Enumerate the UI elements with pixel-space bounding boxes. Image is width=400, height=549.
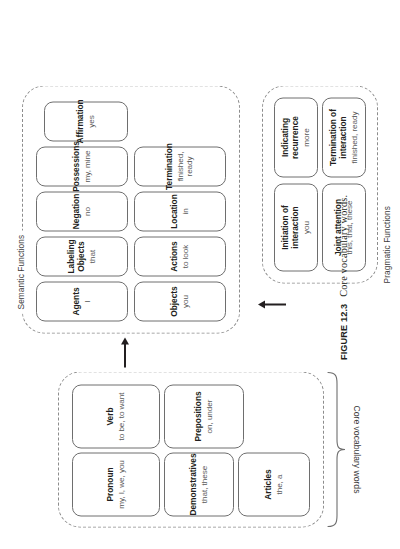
group-pragmatic-functions-label: Pragmatic Functions — [382, 201, 392, 287]
box-subtitle: finished, ready — [350, 111, 359, 163]
box-subtitle: I — [83, 300, 92, 302]
box-affirmation[interactable]: Affirmation yes — [44, 101, 128, 141]
group-semantic-functions-label: Semantic Functions — [16, 230, 26, 313]
box-demonstratives[interactable]: Demonstratives that, these — [164, 452, 234, 516]
box-negation[interactable]: Negation no — [36, 191, 128, 231]
arrow-core-to-pragmatic — [258, 299, 286, 309]
box-agents[interactable]: Agents I — [36, 281, 128, 321]
box-articles[interactable]: Articles the, a — [238, 452, 310, 516]
box-title: Labeling Objects — [67, 239, 86, 273]
box-subtitle: that — [88, 249, 97, 262]
box-title: Objects — [170, 286, 179, 316]
box-title: Termination — [165, 143, 174, 190]
box-subtitle: that, these — [200, 465, 209, 502]
box-indicating-recurrence[interactable]: Indicating recurrence more — [274, 97, 318, 177]
core-vocabulary-brace — [328, 371, 346, 527]
box-title: Articles — [264, 469, 273, 499]
box-title: Agents — [72, 287, 81, 315]
arrow-head-icon — [121, 337, 129, 344]
box-title: Demonstratives — [189, 453, 198, 515]
box-title: Verb — [106, 407, 115, 425]
box-pronoun[interactable]: Pronoun my, I, we, you — [72, 452, 160, 516]
box-subtitle: on, under — [205, 399, 214, 433]
box-actions[interactable]: Actions to look — [134, 236, 226, 276]
arrow-shaft — [124, 343, 126, 367]
box-title: Affirmation — [76, 99, 85, 143]
box-verb[interactable]: Verb to be, to want — [72, 384, 160, 448]
box-subtitle: to look — [181, 244, 190, 268]
box-prepositions[interactable]: Prepositions on, under — [164, 384, 244, 448]
box-possessions[interactable]: Possessions my, mine — [36, 146, 128, 186]
box-title: Initiation of interaction — [281, 187, 300, 267]
figure-number: FIGURE 12.3 — [339, 304, 349, 360]
box-title: Indicating recurrence — [281, 101, 300, 173]
box-title: Possessions — [72, 141, 81, 192]
box-title: Pronoun — [106, 467, 115, 501]
box-title: Prepositions — [194, 391, 203, 441]
box-subtitle: the, a — [275, 474, 284, 494]
box-subtitle: my, mine — [83, 150, 92, 182]
core-vocabulary-brace-label: Core vocabulary words — [352, 389, 362, 509]
box-subtitle: in — [181, 208, 190, 214]
box-subtitle: my, I, we, you — [117, 460, 126, 509]
arrow-shaft — [264, 303, 286, 305]
box-subtitle: finished, ready — [176, 150, 195, 182]
box-initiation-of-interaction[interactable]: Initiation of interaction you — [274, 183, 318, 271]
box-title: Negation — [72, 193, 81, 228]
box-subtitle: to be, to want — [117, 392, 126, 440]
box-subtitle: you — [181, 295, 190, 308]
box-subtitle: you — [302, 221, 311, 234]
box-subtitle: yes — [87, 115, 96, 127]
box-termination-of-interaction[interactable]: Termination of interaction finished, rea… — [322, 97, 366, 177]
figure-caption-text: Core vocabulary words. — [338, 195, 349, 297]
box-subtitle: no — [83, 207, 92, 216]
arrow-core-to-semantic — [120, 337, 130, 367]
arrow-head-icon — [258, 300, 265, 308]
box-objects[interactable]: Objects you — [134, 281, 226, 321]
box-subtitle: more — [302, 128, 311, 146]
box-title: Termination of interaction — [329, 101, 348, 173]
box-title: Location — [170, 194, 179, 229]
box-location[interactable]: Location in — [134, 191, 226, 231]
box-labeling-objects[interactable]: Labeling Objects that — [36, 236, 128, 276]
box-termination[interactable]: Termination finished, ready — [134, 146, 226, 186]
box-title: Actions — [170, 241, 179, 271]
figure-caption: FIGURE 12.3Core vocabulary words. — [338, 195, 349, 360]
